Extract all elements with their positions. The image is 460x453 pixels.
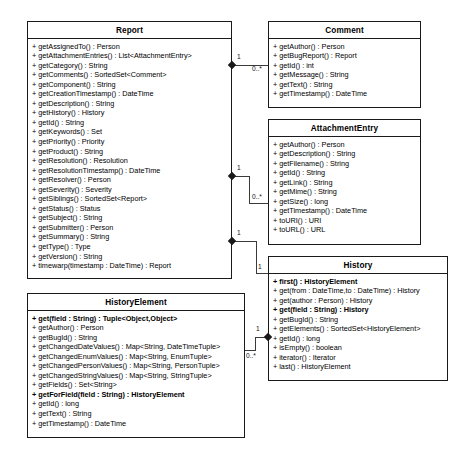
class-member: + getAttachmentEntries() : List<Attachme… — [28, 51, 231, 61]
class-member: + get(field : String) : History — [269, 305, 447, 315]
member-list-attachmententry: + getAuthor() : Person + getDescription(… — [269, 137, 420, 237]
class-member: + getBugId() : String — [28, 333, 244, 343]
class-member: + getAuthor() : Person — [28, 323, 244, 333]
class-member: + timewarp(timestamp : DateTime) : Repor… — [28, 261, 231, 271]
class-member: + getFields() : Set<String> — [28, 380, 244, 390]
class-member: + getPriority() : Priority — [28, 137, 231, 147]
class-member: + getTimestamp() : DateTime — [269, 89, 420, 99]
class-member: + getForField(field : String) : HistoryE… — [28, 390, 244, 400]
class-box-report[interactable]: Report + getAssignedTo() : Person + getA… — [27, 21, 232, 279]
class-member: + getSize() : long — [269, 197, 420, 207]
assoc-report-comment-target-mult: 0..* — [252, 65, 262, 72]
class-member: + getBugReport() : Report — [269, 51, 420, 61]
assoc-history-element-target-mult: 0..* — [246, 352, 256, 359]
class-member: + isEmpty() : boolean — [269, 343, 447, 353]
class-member: + getChangedPersonValues() : Map<String,… — [28, 361, 244, 371]
class-member: + getDescription() : String — [269, 149, 420, 159]
assoc-report-attachment-source-mult: 1 — [237, 164, 241, 171]
class-box-history[interactable]: History + first() : HistoryElement + get… — [268, 256, 448, 381]
assoc-history-element-line-v — [255, 337, 256, 351]
class-member: + getId() : long — [28, 399, 244, 409]
assoc-report-history-line-h2 — [256, 273, 269, 274]
class-member: + getId() : int — [269, 61, 420, 71]
member-list-report: + getAssignedTo() : Person + getAttachme… — [28, 39, 231, 273]
class-member: + getChangedDateValues() : Map<String, D… — [28, 342, 244, 352]
member-list-comment: + getAuthor() : Person + getBugReport() … — [269, 39, 420, 101]
class-member: + getCreationTimestamp() : DateTime — [28, 89, 231, 99]
class-title-comment: Comment — [269, 22, 420, 39]
assoc-report-comment-line — [232, 65, 268, 66]
class-member: + getType() : Type — [28, 242, 231, 252]
assoc-report-attachment-target-mult: 0..* — [252, 193, 262, 200]
class-member: + getSeverity() : Severity — [28, 185, 231, 195]
class-member: + getSummary() : String — [28, 232, 231, 242]
class-member: + getHistory() : History — [28, 108, 231, 118]
class-member: + getTimestamp() : DateTime — [28, 419, 244, 429]
class-member: + get(field : String) : Tuple<Object,Obj… — [28, 314, 244, 324]
class-member: + getComments() : SortedSet<Comment> — [28, 70, 231, 80]
class-title-history: History — [269, 257, 447, 274]
assoc-report-history-source-mult: 1 — [237, 229, 241, 236]
class-member: + getMime() : String — [269, 187, 420, 197]
class-member: + getLink() : String — [269, 178, 420, 188]
class-title-report: Report — [28, 22, 231, 39]
class-member: + getChangedStringValues() : Map<String,… — [28, 371, 244, 381]
class-member: + get(from : DateTime,to : DateTime) : H… — [269, 286, 447, 296]
class-member: + first() : HistoryElement — [269, 277, 447, 287]
assoc-report-history-line-v — [256, 241, 257, 274]
class-member: + getSubject() : String — [28, 213, 231, 223]
class-member: + getCategory() : String — [28, 61, 231, 71]
class-member: + getText() : String — [28, 409, 244, 419]
class-member: + getKeywords() : Set — [28, 127, 231, 137]
class-box-attachmententry[interactable]: AttachmentEntry + getAuthor() : Person +… — [268, 119, 421, 245]
class-member: + getId() : long — [269, 334, 447, 344]
member-list-history: + first() : HistoryElement + get(from : … — [269, 274, 447, 374]
class-member: + getAuthor() : Person — [269, 42, 420, 52]
class-member: + getSiblings() : SortedSet<Report> — [28, 194, 231, 204]
assoc-report-history-target-mult: 1 — [258, 263, 262, 270]
class-box-comment[interactable]: Comment + getAuthor() : Person + getBugR… — [268, 21, 421, 108]
class-member: + iterator() : Iterator — [269, 353, 447, 363]
class-member: + getTimestamp() : DateTime — [269, 206, 420, 216]
class-member: + getResolver() : Person — [28, 175, 231, 185]
assoc-report-comment-source-mult: 1 — [237, 53, 241, 60]
class-member: + getBugId() : String — [269, 315, 447, 325]
class-member: + getComponent() : String — [28, 80, 231, 90]
class-member: + getAuthor() : Person — [269, 140, 420, 150]
class-title-attachmententry: AttachmentEntry — [269, 120, 420, 137]
class-member: + getAssignedTo() : Person — [28, 42, 231, 52]
assoc-report-attachment-line-v — [249, 176, 250, 204]
class-title-historyelement: HistoryElement — [28, 294, 244, 311]
class-member: + last() : HistoryElement — [269, 362, 447, 372]
class-member: + getMessage() : String — [269, 70, 420, 80]
class-member: + getProduct() : String — [28, 147, 231, 157]
class-member: + getChangedEnumValues() : Map<String, E… — [28, 352, 244, 362]
assoc-history-element-source-mult: 1 — [256, 325, 260, 332]
class-member: + getSubmitter() : Person — [28, 223, 231, 233]
class-member: + getResolution() : Resolution — [28, 156, 231, 166]
class-member: + getResolutionTimestamp() : DateTime — [28, 166, 231, 176]
uml-diagram-canvas: Report + getAssignedTo() : Person + getA… — [0, 0, 460, 453]
class-member: + toURI() : URI — [269, 216, 420, 226]
class-member: + getId() : String — [28, 118, 231, 128]
class-member: + getVersion() : String — [28, 252, 231, 262]
class-box-historyelement[interactable]: HistoryElement + get(field : String) : T… — [27, 293, 245, 438]
class-member: + getId() : String — [269, 168, 420, 178]
member-list-historyelement: + get(field : String) : Tuple<Object,Obj… — [28, 311, 244, 431]
class-member: + toURL() : URL — [269, 225, 420, 235]
class-member: + getText() : String — [269, 80, 420, 90]
assoc-report-attachment-line-h2 — [249, 203, 269, 204]
class-member: + getStatus() : Status — [28, 204, 231, 214]
class-member: + getFilename() : String — [269, 159, 420, 169]
class-member: + getElements() : SortedSet<HistoryEleme… — [269, 324, 447, 334]
class-member: + getDescription() : String — [28, 99, 231, 109]
class-member: + get(author : Person) : History — [269, 296, 447, 306]
